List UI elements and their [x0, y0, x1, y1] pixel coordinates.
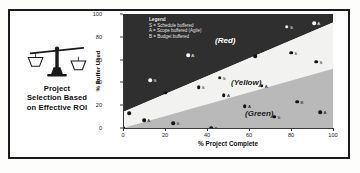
- data-point: [272, 115, 276, 119]
- y-tick-mark: [120, 105, 123, 106]
- data-point: [218, 76, 222, 80]
- zone-label-red: (Red): [215, 36, 235, 45]
- caption-line-2: Selection Based: [14, 93, 100, 102]
- y-tick-label: 80: [96, 34, 105, 40]
- data-point-label: S: [168, 90, 171, 95]
- data-point: [186, 53, 190, 57]
- y-tick-mark: [120, 36, 123, 37]
- x-axis-line: [123, 128, 333, 129]
- data-point: [312, 21, 316, 25]
- data-point-label: A: [324, 110, 327, 115]
- y-tick-label: 0: [99, 125, 105, 131]
- y-axis-line: [123, 14, 124, 128]
- x-tick-mark: [123, 128, 124, 131]
- data-point: [289, 51, 293, 55]
- x-tick-label: 40: [204, 132, 210, 138]
- data-point: [314, 60, 318, 64]
- data-point: [319, 110, 323, 114]
- data-point-label: S: [290, 24, 293, 29]
- legend-entry-scope: A = Scope buffered (Agile): [149, 28, 202, 33]
- zone-label-yellow: (Yellow): [231, 78, 261, 87]
- zone-label-green: (Green): [245, 109, 273, 118]
- y-tick-mark: [120, 14, 123, 15]
- x-tick-mark: [291, 128, 292, 131]
- x-tick-mark: [249, 128, 250, 131]
- data-point-label: S: [294, 50, 297, 55]
- x-tick-label: 20: [162, 132, 168, 138]
- x-axis-title: % Project Complete: [198, 140, 258, 147]
- data-point: [172, 122, 176, 126]
- y-tick-label: 20: [96, 102, 105, 108]
- data-point-label: A: [265, 83, 268, 88]
- data-point: [128, 111, 132, 115]
- x-tick-label: 100: [328, 132, 337, 138]
- data-point: [254, 54, 258, 58]
- x-tick-mark: [333, 128, 334, 131]
- data-point: [142, 118, 146, 122]
- y-tick-mark: [120, 59, 123, 60]
- data-point-label: B: [259, 54, 262, 59]
- data-point-label: S: [202, 84, 205, 89]
- y-tick-label: 100: [93, 11, 105, 17]
- data-point-label: S: [177, 121, 180, 126]
- data-point-label: S: [319, 59, 322, 64]
- caption-block: Project Selection Based on Effective ROI: [14, 42, 100, 112]
- y-axis-title: % Buffer Used: [95, 50, 101, 91]
- data-point-label: A: [248, 104, 251, 109]
- x-tick-label: 60: [246, 132, 252, 138]
- chart-legend: Legend S = Schedule buffered A = Scope b…: [149, 17, 202, 39]
- x-tick-mark: [165, 128, 166, 131]
- data-point: [149, 78, 153, 82]
- x-tick-label: 0: [121, 132, 124, 138]
- x-tick-label: 80: [288, 132, 294, 138]
- data-point-label: B: [301, 99, 304, 104]
- caption-line-1: Project: [14, 84, 100, 93]
- data-point-label: S: [223, 75, 226, 80]
- data-point: [163, 91, 167, 95]
- y-tick-mark: [120, 82, 123, 83]
- figure-root: Project Selection Based on Effective ROI…: [0, 0, 360, 173]
- scatter-chart: Legend S = Schedule buffered A = Scope b…: [105, 14, 341, 142]
- data-point-label: A: [191, 53, 194, 58]
- data-point: [197, 85, 201, 89]
- data-point-label: S: [277, 114, 280, 119]
- data-point-label: A: [317, 21, 320, 26]
- data-point: [243, 105, 247, 109]
- plot-area: Legend S = Schedule buffered A = Scope b…: [123, 14, 333, 128]
- legend-entry-budget: B = Budget buffered: [149, 34, 202, 39]
- data-point: [260, 84, 264, 88]
- legend-title: Legend: [149, 17, 202, 22]
- data-point: [296, 100, 300, 104]
- data-point-label: A: [147, 118, 150, 123]
- x-tick-mark: [207, 128, 208, 131]
- data-point-label: S: [133, 111, 136, 116]
- data-point: [222, 93, 226, 97]
- data-point: [285, 25, 289, 29]
- data-point-label: S: [154, 78, 157, 83]
- data-point-label: A: [227, 92, 230, 97]
- caption-line-3: on Effective ROI: [14, 103, 100, 112]
- balance-scales-icon: [25, 42, 89, 78]
